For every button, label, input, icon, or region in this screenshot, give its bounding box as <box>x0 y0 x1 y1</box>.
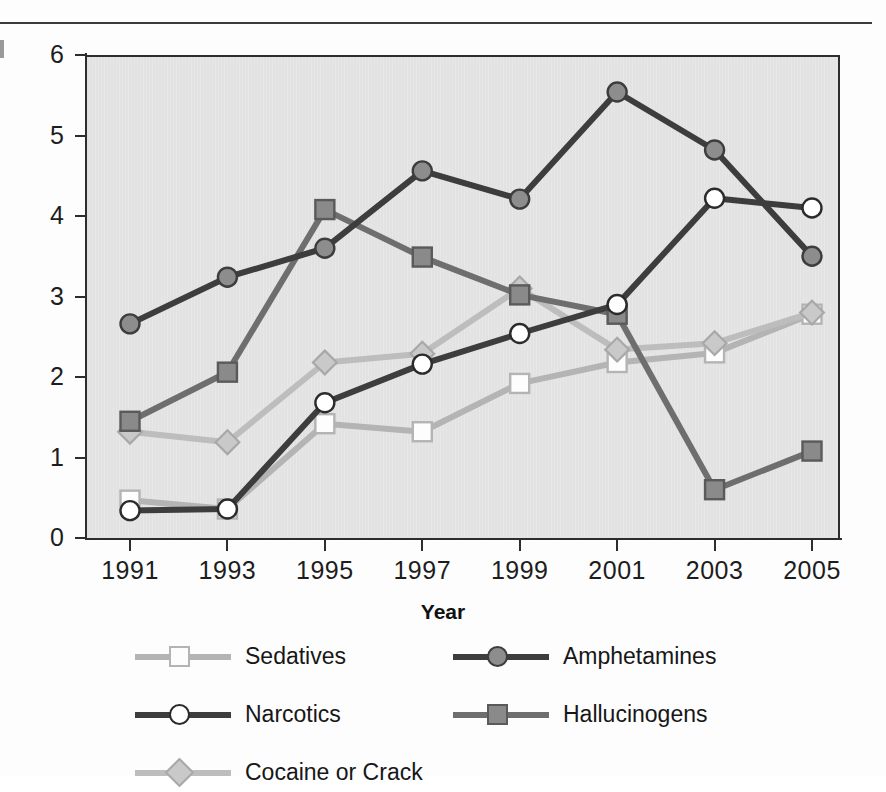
legend-item-amphetamines[interactable]: Amphetamines <box>453 636 716 676</box>
data-point-marker <box>705 480 724 499</box>
data-point-marker <box>413 355 432 374</box>
legend-marker-square-icon <box>487 704 508 725</box>
data-point-marker <box>315 200 334 219</box>
data-point-marker <box>608 295 627 314</box>
data-point-marker <box>413 161 432 180</box>
data-point-marker <box>121 314 140 333</box>
data-point-marker <box>803 198 822 217</box>
legend-item-cocaine[interactable]: Cocaine or Crack <box>135 752 423 792</box>
data-point-marker <box>218 363 237 382</box>
data-point-marker <box>413 422 432 441</box>
legend-swatch-amphetamines <box>453 643 549 669</box>
x-axis-title: Year <box>0 600 886 624</box>
data-point-marker <box>803 442 822 461</box>
legend-label-narcotics: Narcotics <box>245 701 341 727</box>
legend-swatch-cocaine <box>135 759 231 785</box>
legend-label-hallucinogens: Hallucinogens <box>563 701 707 727</box>
data-point-marker <box>315 239 334 258</box>
legend-marker-circle-icon <box>169 704 190 725</box>
data-point-marker <box>510 285 529 304</box>
data-point-marker <box>218 500 237 519</box>
legend-item-hallucinogens[interactable]: Hallucinogens <box>453 694 707 734</box>
legend-label-sedatives: Sedatives <box>245 643 346 669</box>
data-point-marker <box>121 501 140 520</box>
legend-swatch-hallucinogens <box>453 701 549 727</box>
data-point-marker <box>705 140 724 159</box>
legend-swatch-sedatives <box>135 643 231 669</box>
legend-item-sedatives[interactable]: Sedatives <box>135 636 346 676</box>
data-point-marker <box>413 248 432 267</box>
data-point-marker <box>510 190 529 209</box>
legend-marker-circle-icon <box>487 646 508 667</box>
data-point-marker <box>510 374 529 393</box>
data-point-marker <box>608 83 627 102</box>
legend-item-narcotics[interactable]: Narcotics <box>135 694 341 734</box>
data-point-marker <box>705 189 724 208</box>
data-point-marker <box>315 414 334 433</box>
data-point-marker <box>803 247 822 266</box>
legend-marker-diamond-icon <box>165 758 195 788</box>
legend-label-cocaine: Cocaine or Crack <box>245 759 423 785</box>
legend-swatch-narcotics <box>135 701 231 727</box>
data-point-marker <box>218 268 237 287</box>
legend-label-amphetamines: Amphetamines <box>563 643 716 669</box>
legend-marker-square-icon <box>169 646 190 667</box>
data-point-marker <box>315 393 334 412</box>
data-point-marker <box>510 324 529 343</box>
data-point-marker <box>121 412 140 431</box>
